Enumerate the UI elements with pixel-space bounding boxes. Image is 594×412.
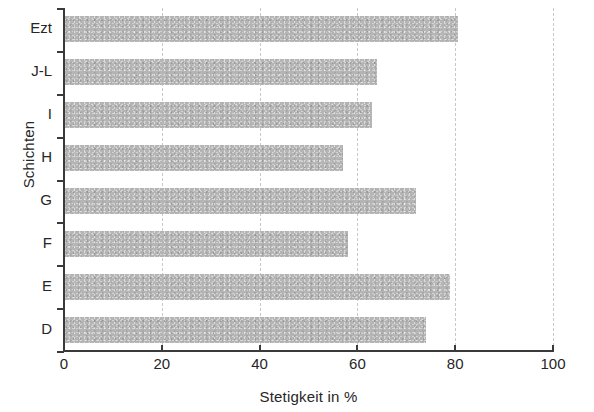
bar-row	[64, 145, 553, 171]
y-tick-mark	[57, 222, 64, 224]
y-tick-label-F: F	[0, 234, 52, 251]
x-axis-title: Stetigkeit in %	[64, 388, 553, 405]
y-tick-mark	[57, 94, 64, 96]
bar-E	[64, 274, 450, 300]
x-tick-label-80: 80	[425, 355, 485, 372]
bar-row	[64, 102, 553, 128]
bar-J-L	[64, 59, 377, 85]
bar-chart: EztJ-LIHGFED020406080100 Schichten Steti…	[0, 0, 594, 412]
y-tick-label-E: E	[0, 277, 52, 294]
bar-row	[64, 59, 553, 85]
x-tick-mark-60	[356, 345, 358, 352]
y-tick-mark	[57, 137, 64, 139]
bar-G	[64, 188, 416, 214]
bar-I	[64, 102, 372, 128]
bar-Ezt	[64, 16, 458, 42]
y-tick-label-D: D	[0, 320, 52, 337]
x-tick-mark-100	[552, 345, 554, 352]
y-tick-mark	[57, 8, 64, 10]
x-tick-mark-80	[454, 345, 456, 352]
bar-row	[64, 188, 553, 214]
x-tick-label-100: 100	[523, 355, 583, 372]
x-tick-label-60: 60	[327, 355, 387, 372]
x-axis-line	[63, 350, 554, 352]
x-tick-label-40: 40	[230, 355, 290, 372]
x-tick-label-20: 20	[132, 355, 192, 372]
bar-D	[64, 317, 426, 343]
y-tick-mark	[57, 265, 64, 267]
y-tick-mark	[57, 308, 64, 310]
x-tick-mark-20	[161, 345, 163, 352]
x-tick-mark-40	[259, 345, 261, 352]
y-tick-mark	[57, 180, 64, 182]
bar-H	[64, 145, 343, 171]
plot-area	[64, 8, 553, 351]
bar-row	[64, 317, 553, 343]
x-tick-mark-0	[63, 345, 65, 352]
bar-row	[64, 274, 553, 300]
y-axis-title: Schichten	[20, 75, 37, 235]
x-tick-label-0: 0	[34, 355, 94, 372]
gridline-100	[553, 8, 555, 351]
bar-row	[64, 16, 553, 42]
bar-row	[64, 231, 553, 257]
y-tick-mark	[57, 51, 64, 53]
y-tick-label-Ezt: Ezt	[0, 19, 52, 36]
bar-F	[64, 231, 348, 257]
